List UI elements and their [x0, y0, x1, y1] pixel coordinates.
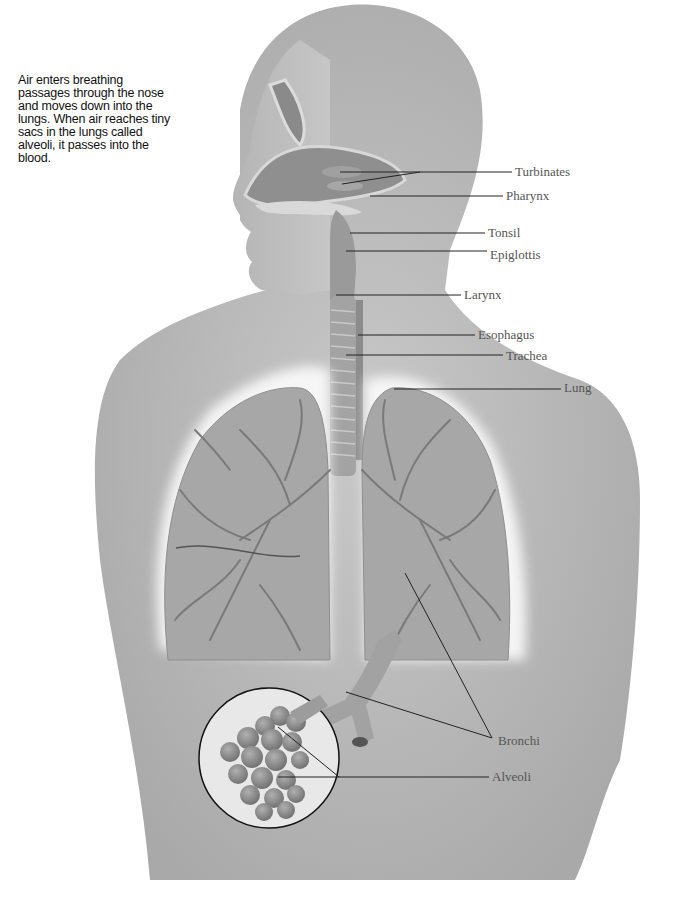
label-trachea: Trachea	[506, 349, 547, 363]
label-epiglottis: Epiglottis	[490, 248, 541, 262]
bronchus-opening	[352, 737, 368, 747]
label-tonsil: Tonsil	[488, 226, 520, 240]
label-alveoli: Alveoli	[492, 770, 531, 784]
label-pharynx: Pharynx	[506, 189, 549, 203]
turbinate-lower	[327, 181, 363, 191]
label-lung: Lung	[564, 381, 591, 395]
caption-text: Air enters breathing passages through th…	[18, 74, 178, 165]
label-larynx: Larynx	[464, 288, 502, 302]
label-bronchi: Bronchi	[498, 734, 540, 748]
esophagus	[356, 300, 363, 460]
label-turbinates: Turbinates	[515, 165, 570, 179]
label-esophagus: Esophagus	[478, 328, 534, 342]
